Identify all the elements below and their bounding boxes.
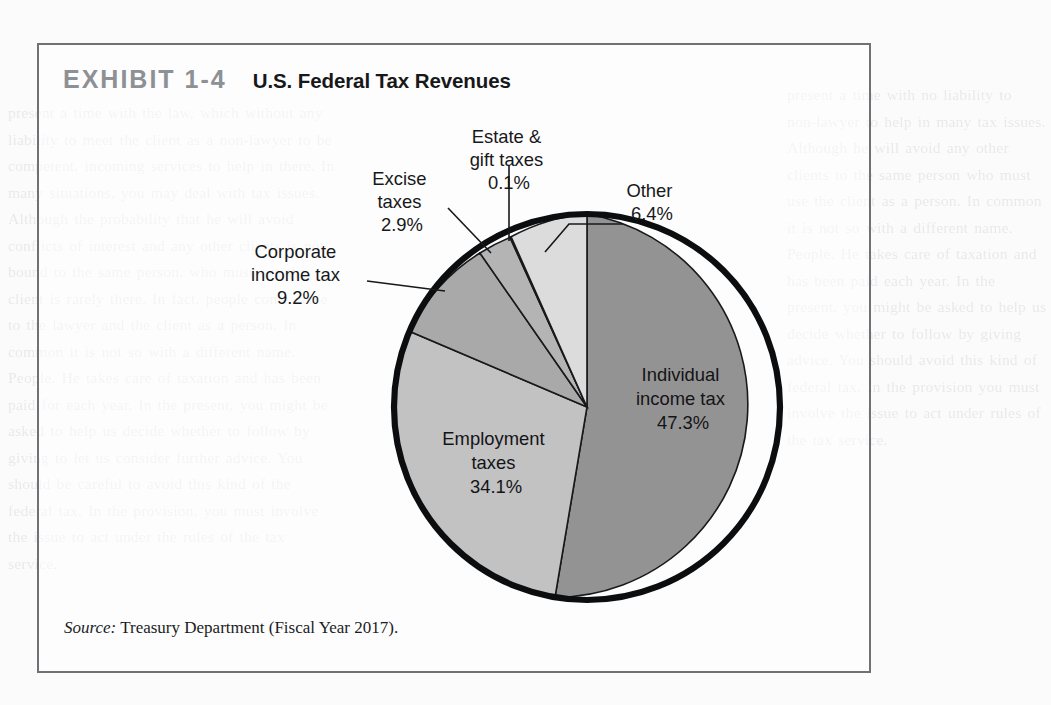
label-corporate-income-tax: Corporate income tax 9.2% (251, 241, 345, 308)
source-label: Source: (64, 618, 116, 637)
label-excise-taxes: Excise taxes 2.9% (372, 168, 431, 235)
source-text: Treasury Department (Fiscal Year 2017). (116, 618, 398, 637)
exhibit-frame: EXHIBIT 1-4 U.S. Federal Tax Revenues (37, 43, 871, 673)
pie-chart: Estate & gift taxes 0.1% Other 6.4% Exci… (39, 45, 873, 675)
leader-line-excise-taxes (448, 208, 491, 253)
label-estate-gift-taxes: Estate & gift taxes 0.1% (470, 126, 549, 193)
label-other: Other 6.4% (626, 180, 677, 224)
source-note: Source: Treasury Department (Fiscal Year… (64, 618, 398, 638)
